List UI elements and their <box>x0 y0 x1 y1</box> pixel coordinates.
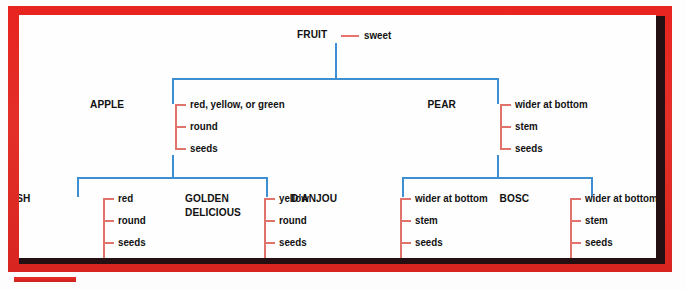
node-pear-attribute-1: stem <box>515 120 538 132</box>
danjou-tick-0 <box>400 198 411 200</box>
node-bosc-attribute-2: seeds <box>585 236 613 248</box>
fruit-attribute-lead <box>341 35 359 37</box>
node-golden-delicious-label-line1: GOLDEN <box>185 192 229 204</box>
trunk-fruit <box>335 43 337 79</box>
golden-delicious-tick-1 <box>264 220 275 222</box>
node-mcintosh-attribute-0: red <box>118 192 133 204</box>
mcintosh-attribute-stem <box>103 198 105 258</box>
drop-golden-delicious <box>266 177 268 197</box>
danjou-attribute-stem <box>400 198 402 258</box>
trunk-apple-down <box>172 155 174 178</box>
node-danjou-attribute-2: seeds <box>415 236 443 248</box>
drop-mcintosh <box>77 177 79 197</box>
node-golden-delicious-attribute-2: seeds <box>279 236 307 248</box>
spreader-apple-children <box>77 177 268 179</box>
pear-tick-2 <box>500 148 511 150</box>
golden-delicious-tick-0 <box>264 198 275 200</box>
danjou-tick-2 <box>400 242 411 244</box>
node-danjou-attribute-0: wider at bottom <box>415 192 488 204</box>
node-golden-delicious-label-line2: DELICIOUS <box>185 206 241 218</box>
node-apple-attribute-0: red, yellow, or green <box>190 98 285 110</box>
bosc-tick-2 <box>570 242 581 244</box>
pear-tick-1 <box>500 126 511 128</box>
node-bosc-attribute-1: stem <box>585 214 608 226</box>
bosc-tick-0 <box>570 198 581 200</box>
golden-delicious-attribute-stem <box>264 198 266 258</box>
node-danjou-label: D’ANJOU <box>291 192 337 204</box>
mcintosh-tick-2 <box>103 242 114 244</box>
node-apple-label: APPLE <box>90 98 124 110</box>
trunk-pear-down <box>497 155 499 178</box>
apple-tick-2 <box>175 148 186 150</box>
danjou-tick-1 <box>400 220 411 222</box>
frame-edge-artifact <box>14 277 76 282</box>
node-pear-attribute-2: seeds <box>515 142 543 154</box>
diagram-stage: FRUIT sweet APPLE red, yellow, or green … <box>0 0 685 290</box>
node-golden-delicious-attribute-1: round <box>279 214 307 226</box>
node-fruit-attribute-sweet: sweet <box>364 29 391 41</box>
node-bosc-label: BOSC <box>499 192 529 204</box>
node-fruit-label: FRUIT <box>297 28 327 40</box>
drop-pear <box>497 78 499 104</box>
node-danjou-attribute-1: stem <box>415 214 438 226</box>
node-pear-attribute-0: wider at bottom <box>515 98 588 110</box>
bosc-tick-1 <box>570 220 581 222</box>
mcintosh-tick-0 <box>103 198 114 200</box>
spreader-pear-children <box>402 177 593 179</box>
node-apple-attribute-1: round <box>190 120 218 132</box>
node-mcintosh-attribute-2: seeds <box>118 236 146 248</box>
pear-tick-0 <box>500 104 511 106</box>
node-pear-label: PEAR <box>428 98 456 110</box>
apple-tick-0 <box>175 104 186 106</box>
drop-danjou <box>402 177 404 197</box>
node-apple-attribute-2: seeds <box>190 142 218 154</box>
node-mcintosh-attribute-1: round <box>118 214 146 226</box>
diagram-canvas: FRUIT sweet APPLE red, yellow, or green … <box>19 15 656 258</box>
bosc-attribute-stem <box>570 198 572 258</box>
golden-delicious-tick-2 <box>264 242 275 244</box>
node-mcintosh-label: McINTOSH <box>19 192 30 204</box>
spreader-level2 <box>172 78 499 80</box>
node-bosc-attribute-0: wider at bottom <box>585 192 656 204</box>
apple-tick-1 <box>175 126 186 128</box>
drop-apple <box>172 78 174 104</box>
mcintosh-tick-1 <box>103 220 114 222</box>
